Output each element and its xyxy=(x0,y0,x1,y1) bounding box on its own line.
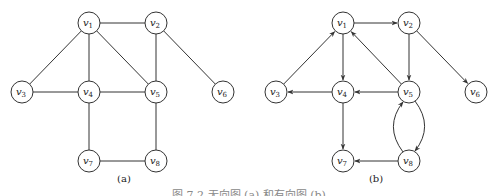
arc-v3-to-v1 xyxy=(284,32,335,84)
node-v5: v5 xyxy=(145,81,167,103)
edges-a xyxy=(30,23,216,161)
arc-v5-to-v8 xyxy=(415,101,425,151)
node-v7: v7 xyxy=(78,150,100,172)
node-v4: v4 xyxy=(78,81,100,103)
edge-v1-v3 xyxy=(30,31,82,84)
arc-v8-to-v5 xyxy=(393,102,403,152)
directed-graph-b: v1v2v3v4v5v6v7v8 (b) xyxy=(265,12,487,184)
undirected-graph-a: v1v2v3v4v5v6v7v8 (a) xyxy=(11,12,234,184)
node-v2: v2 xyxy=(398,12,420,34)
graph-b-label: (b) xyxy=(369,173,383,184)
node-v5: v5 xyxy=(398,81,420,103)
figure-caption: 图 7.2 无向图 (a) 和有向图 (b) xyxy=(0,188,498,196)
node-v8: v8 xyxy=(398,150,420,172)
node-v6: v6 xyxy=(212,81,234,103)
graph-figure: v1v2v3v4v5v6v7v8 (a) v1v2v3v4v5v6v7v8 (b… xyxy=(0,0,498,196)
edges-b xyxy=(284,23,468,161)
node-v4: v4 xyxy=(332,81,354,103)
edge-v2-v6 xyxy=(164,31,216,84)
graph-a-label: (a) xyxy=(117,173,131,184)
node-v3: v3 xyxy=(265,81,287,103)
node-v1: v1 xyxy=(78,12,100,34)
node-v1: v1 xyxy=(332,12,354,34)
node-v6: v6 xyxy=(465,81,487,103)
node-v2: v2 xyxy=(145,12,167,34)
node-v8: v8 xyxy=(145,150,167,172)
arc-v5-to-v1 xyxy=(351,32,401,84)
node-v7: v7 xyxy=(332,150,354,172)
edge-v1-v5 xyxy=(97,31,149,84)
arc-v2-to-v6 xyxy=(417,31,468,83)
node-v3: v3 xyxy=(11,81,33,103)
